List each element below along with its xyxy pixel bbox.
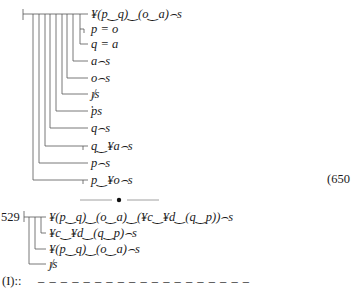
- formula-ps: ̔ps: [91, 104, 102, 118]
- formula-p-eq-o: p = o: [91, 22, 118, 36]
- formula-bottom-pq-oa: ¥(p‿q)‿(o‿a)⌢s: [49, 242, 140, 256]
- formula-bottom-not-j-s: ȷ̸s: [49, 257, 57, 271]
- formula-not-j-s: ȷ̸s: [91, 87, 99, 101]
- formula-p-yen-o-s: p‿¥o⌢s: [91, 173, 133, 187]
- formula-q-yen-a-s: q‿¥a⌢s: [91, 139, 133, 153]
- formula-p-s: p⌢s: [91, 156, 110, 170]
- footer-dashes: – – – – – – – – – – – – – – – – – – –: [38, 274, 250, 288]
- formula-root: ¥(p‿q)‿(o‿a)⌢s: [91, 7, 182, 21]
- formula-bottom-c-d: ¥c‿¥d‿(q‿p)⌢s: [49, 226, 137, 240]
- formula-bottom-root: ¥(p‿q)‿(o‿a)‿(¥c‿¥d‿(q‿p))⌢s: [49, 210, 233, 224]
- footer-label: (I)::: [2, 274, 21, 288]
- formula-q-s: q⌢s: [91, 121, 110, 135]
- equation-number: (650: [327, 172, 350, 186]
- formula-o-s: o⌢s: [91, 71, 110, 85]
- formula-a-s: a⌢s: [91, 54, 110, 68]
- formula-q-eq-a: q = a: [91, 37, 118, 51]
- separator-dot: [117, 198, 121, 202]
- proof-label: 529: [1, 210, 20, 224]
